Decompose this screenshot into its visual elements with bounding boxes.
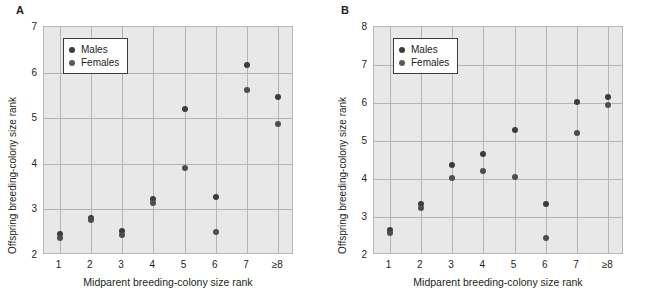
gridline-horizontal (44, 164, 292, 165)
x-tick-label: 1 (386, 259, 392, 270)
data-point-male (480, 151, 486, 157)
x-tick-label: 1 (56, 259, 62, 270)
y-tick-label: 3 (347, 211, 367, 222)
y-tick-label: 6 (347, 97, 367, 108)
gridline-vertical (153, 27, 154, 253)
gridline-vertical (390, 27, 391, 253)
legend-marker-icon (399, 47, 405, 53)
x-tick-label: 4 (480, 259, 486, 270)
y-tick-label: 8 (347, 21, 367, 32)
y-tick-label: 6 (17, 66, 37, 77)
y-tick-label: 3 (17, 203, 37, 214)
x-tick-label: 6 (212, 259, 218, 270)
x-tick-label: ≥8 (602, 259, 613, 270)
y-tick-label: 2 (17, 249, 37, 260)
data-point-female (543, 235, 549, 241)
legend-marker-icon (399, 60, 405, 66)
y-tick-label: 4 (17, 157, 37, 168)
panel-b: B 1234567≥82345678Offspring breeding-col… (325, 0, 650, 306)
gridline-horizontal (374, 141, 622, 142)
data-point-male (449, 162, 455, 168)
x-tick-label: 2 (87, 259, 93, 270)
x-tick-label: 2 (417, 259, 423, 270)
x-tick-label: 5 (181, 259, 187, 270)
data-point-female (88, 217, 94, 223)
data-point-female (605, 102, 611, 108)
data-point-female (387, 230, 393, 236)
gridline-vertical (577, 27, 578, 253)
data-point-male (182, 106, 188, 112)
data-point-female (574, 130, 580, 136)
legend-item: Males (69, 43, 119, 56)
x-tick-label: 3 (118, 259, 124, 270)
x-tick-label: 3 (448, 259, 454, 270)
data-point-female (244, 87, 250, 93)
data-point-female (480, 168, 486, 174)
data-point-female (512, 174, 518, 180)
x-tick-label: 4 (150, 259, 156, 270)
gridline-vertical (185, 27, 186, 253)
x-tick-label: 7 (573, 259, 579, 270)
x-tick-label: 6 (542, 259, 548, 270)
data-point-male (605, 94, 611, 100)
data-point-female (57, 235, 63, 241)
y-tick-label: 4 (347, 173, 367, 184)
y-axis-label: Offspring breeding-colony size rank (7, 97, 18, 254)
x-tick-label: ≥8 (272, 259, 283, 270)
y-tick-label: 2 (347, 249, 367, 260)
legend-marker-icon (69, 47, 75, 53)
gridline-vertical (278, 27, 279, 253)
gridline-vertical (515, 27, 516, 253)
legend-item: Males (399, 43, 449, 56)
panel-a-label: A (16, 4, 24, 16)
data-point-male (244, 62, 250, 68)
gridline-horizontal (44, 209, 292, 210)
gridline-vertical (546, 27, 547, 253)
y-tick-label: 7 (347, 59, 367, 70)
y-tick-label: 5 (17, 112, 37, 123)
data-point-female (275, 121, 281, 127)
legend: MalesFemales (63, 38, 128, 74)
legend-marker-icon (69, 60, 75, 66)
gridline-vertical (216, 27, 217, 253)
gridline-horizontal (374, 103, 622, 104)
x-axis-label: Midparent breeding-colony size rank (43, 276, 293, 288)
legend-label: Males (411, 43, 438, 56)
data-point-female (418, 205, 424, 211)
data-point-female (449, 175, 455, 181)
data-point-male (574, 99, 580, 105)
y-axis-label: Offspring breeding-colony size rank (337, 97, 348, 254)
data-point-male (543, 201, 549, 207)
figure-scatter-panels: A 1234567≥8234567Offspring breeding-colo… (0, 0, 650, 306)
x-axis-label: Midparent breeding-colony size rank (373, 276, 623, 288)
legend-item: Females (69, 56, 119, 69)
data-point-female (150, 200, 156, 206)
gridline-vertical (608, 27, 609, 253)
legend-label: Females (411, 56, 449, 69)
x-tick-label: 7 (243, 259, 249, 270)
panel-a: A 1234567≥8234567Offspring breeding-colo… (0, 0, 325, 306)
x-tick-label: 5 (511, 259, 517, 270)
data-point-female (119, 232, 125, 238)
y-tick-label: 7 (17, 21, 37, 32)
gridline-horizontal (374, 179, 622, 180)
legend-item: Females (399, 56, 449, 69)
gridline-vertical (60, 27, 61, 253)
legend-label: Males (81, 43, 108, 56)
data-point-male (213, 194, 219, 200)
data-point-female (213, 229, 219, 235)
data-point-female (182, 165, 188, 171)
gridline-horizontal (44, 118, 292, 119)
gridline-horizontal (374, 217, 622, 218)
gridline-vertical (483, 27, 484, 253)
gridline-vertical (247, 27, 248, 253)
y-tick-label: 5 (347, 135, 367, 146)
legend: MalesFemales (393, 38, 458, 74)
data-point-male (275, 94, 281, 100)
legend-label: Females (81, 56, 119, 69)
panel-b-label: B (341, 4, 349, 16)
data-point-male (512, 127, 518, 133)
